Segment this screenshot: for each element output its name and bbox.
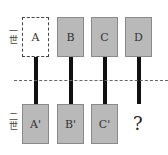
box-b: B [57, 17, 84, 57]
unknown-question-mark: ? [133, 113, 143, 134]
box-c-prime: C' [91, 104, 118, 144]
box-d: D [125, 17, 152, 57]
first-generation-label: 一世 [5, 26, 17, 44]
second-generation-label: 二世 [5, 112, 17, 130]
box-c: C [91, 17, 118, 57]
generation-divider [14, 80, 168, 81]
box-a: A [22, 17, 49, 57]
box-a-prime: A' [22, 104, 49, 144]
box-b-prime: B' [57, 104, 84, 144]
